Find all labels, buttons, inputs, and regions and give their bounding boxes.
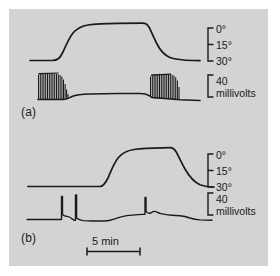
temp-tick-label-a-30: 30° <box>216 55 232 67</box>
temp-tick-label-b-0: 0° <box>216 149 226 161</box>
figure-container: (a) (b) 0° 15° 30° 40millivolts 0° 15° 3… <box>0 0 280 276</box>
voltage-scale-label-b: 40millivolts <box>216 194 256 217</box>
panel-label-a: (a) <box>21 105 36 119</box>
temperature-trace-b <box>28 148 214 187</box>
voltage-scale-unit-b: millivolts <box>216 205 256 217</box>
voltage-scale-value-a: 40 <box>216 75 228 87</box>
time-scale-bar <box>87 248 140 255</box>
voltage-scale-bracket-a <box>208 75 213 97</box>
time-scale-bar-label: 5 min <box>92 235 119 247</box>
traces-svg <box>0 0 280 276</box>
temp-tick-label-a-0: 0° <box>216 23 226 35</box>
temp-tick-label-b-15: 15° <box>216 165 232 177</box>
voltage-scale-label-a: 40millivolts <box>216 76 256 99</box>
temp-tick-label-b-30: 30° <box>216 181 232 193</box>
membrane-trace-b <box>27 195 212 221</box>
temperature-scale-bracket-a <box>208 28 213 61</box>
spike-burst-a-1 <box>39 73 69 100</box>
panel-a-group <box>30 23 213 100</box>
voltage-scale-unit-a: millivolts <box>216 87 256 99</box>
temperature-scale-bracket-b <box>208 154 213 187</box>
spike-burst-a-2 <box>151 74 180 100</box>
temperature-trace-a <box>30 23 200 60</box>
voltage-scale-value-b: 40 <box>216 193 228 205</box>
voltage-scale-bracket-b <box>208 193 213 215</box>
temp-tick-label-a-15: 15° <box>216 39 232 51</box>
panel-label-b: (b) <box>21 231 36 245</box>
panel-b-group <box>27 148 214 221</box>
